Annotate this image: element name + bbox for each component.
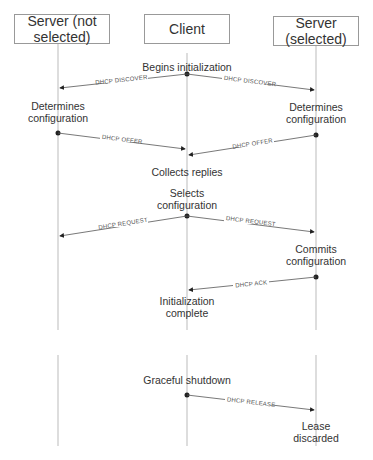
event-graceful-shutdown: Graceful shutdown <box>143 374 231 386</box>
event-determines-config-left: Determines configuration <box>28 100 88 124</box>
event-determines-config-right: Determines configuration <box>286 101 346 125</box>
event-initialization-complete: Initialization complete <box>160 295 215 319</box>
event-selects-configuration: Selects configuration <box>157 187 217 211</box>
participant-client: Client <box>144 14 230 44</box>
event-commits-configuration: Commits configuration <box>286 243 346 267</box>
event-lease-discarded: Lease discarded <box>288 420 345 444</box>
participant-server-not-selected: Server (not selected) <box>14 14 110 44</box>
svg-text:DHCP REQUEST: DHCP REQUEST <box>98 217 148 231</box>
participant-server-selected: Server (selected) <box>273 16 359 46</box>
event-begins-initialization: Begins initialization <box>142 61 231 73</box>
event-collects-replies: Collects replies <box>151 166 222 178</box>
